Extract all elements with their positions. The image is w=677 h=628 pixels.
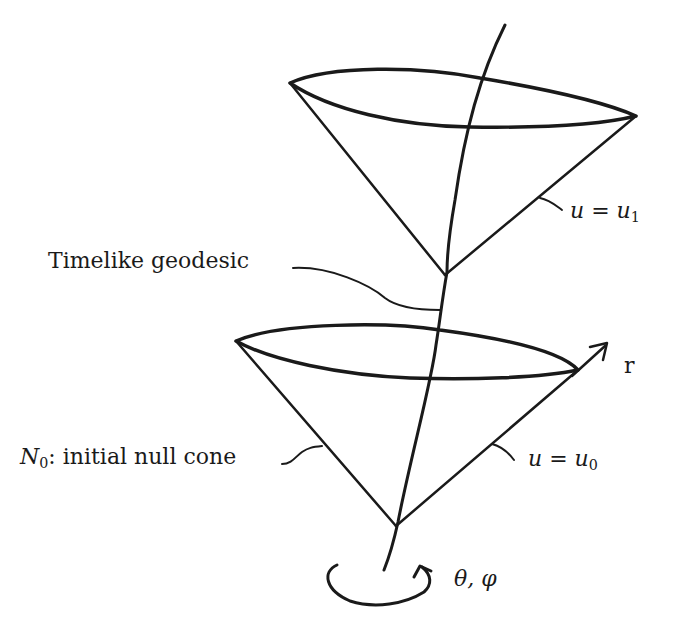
n0-text: : initial null cone [48,444,236,469]
upper-cone-label: u = u1 [570,200,640,224]
initial-null-cone-leader [282,446,322,464]
null-cone-diagram [0,0,677,628]
geodesic-leader [293,268,440,310]
lower-cone-leader [492,444,514,460]
initial-null-cone-label: N0: initial null cone [20,446,236,470]
upper-cone-leader [540,198,562,210]
upper-cone-u: u = u [570,198,631,223]
upper-cone-left-edge [290,83,445,275]
radial-axis-arrow-shaft [572,346,605,376]
upper-cone-right-edge [445,116,636,275]
n0-subscript: 0 [39,455,48,471]
timelike-geodesic-curve [384,25,505,570]
lower-cone-left-edge [236,341,396,526]
rotation-arrow [328,565,430,605]
n0-symbol: N [20,444,39,469]
angular-coords-label: θ, φ [454,568,497,590]
lower-cone-u: u = u [528,446,589,471]
upper-cone-subscript: 1 [631,209,640,225]
lower-cone-label: u = u0 [528,448,598,472]
timelike-geodesic-label: Timelike geodesic [48,250,249,272]
radial-axis-label: r [624,355,635,377]
upper-cone-rim [290,69,636,127]
lower-cone-subscript: 0 [589,457,598,473]
lower-cone-rim [236,325,578,379]
